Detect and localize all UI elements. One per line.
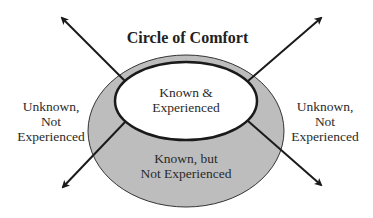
circle-of-comfort-diagram: Circle of Comfort Known & Experienced Kn… bbox=[0, 0, 373, 218]
middle-label-line-2: Not Experienced bbox=[126, 166, 246, 181]
inner-label-line-2: Experienced bbox=[136, 100, 236, 115]
right-label-line-3: Experienced bbox=[290, 129, 360, 144]
left-label-line-2: Not bbox=[16, 114, 86, 129]
middle-label-line-1: Known, but bbox=[126, 151, 246, 166]
diagram-title: Circle of Comfort bbox=[125, 29, 250, 47]
arrow-top-right bbox=[248, 18, 321, 81]
right-label-line-1: Unknown, bbox=[290, 99, 360, 114]
right-region-label: Unknown, Not Experienced bbox=[290, 99, 360, 144]
left-label-line-1: Unknown, bbox=[16, 99, 86, 114]
right-label-line-2: Not bbox=[290, 114, 360, 129]
left-label-line-3: Experienced bbox=[16, 129, 86, 144]
inner-region-label: Known & Experienced bbox=[136, 85, 236, 115]
middle-region-label: Known, but Not Experienced bbox=[126, 151, 246, 181]
inner-label-line-1: Known & bbox=[136, 85, 236, 100]
left-region-label: Unknown, Not Experienced bbox=[16, 99, 86, 144]
arrow-top-left bbox=[62, 18, 125, 81]
